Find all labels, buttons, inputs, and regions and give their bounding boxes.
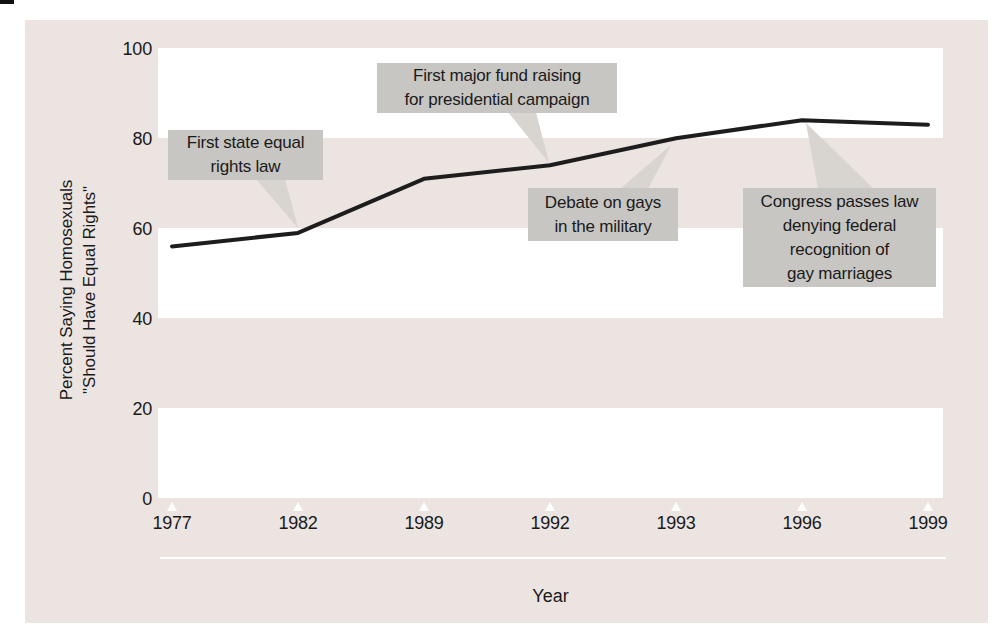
y-tick-label: 100	[88, 40, 152, 58]
y-axis-title-line: Percent Saying Homosexuals	[55, 140, 78, 440]
annotation-text-line: Congress passes law	[743, 190, 936, 214]
x-axis-title: Year	[158, 586, 943, 607]
x-tick-label: 1993	[636, 513, 716, 534]
x-tick-label: 1992	[510, 513, 590, 534]
x-tick-label: 1996	[762, 513, 842, 534]
x-tick-label: 1989	[384, 513, 464, 534]
annotation-text-line: rights law	[168, 155, 323, 179]
annotation-box-fund-raising: First major fund raising for presidentia…	[377, 63, 617, 113]
annotation-text-line: First state equal	[168, 131, 323, 155]
x-axis-separator-line	[160, 557, 946, 559]
x-tick-label: 1977	[132, 513, 212, 534]
y-axis-title: Percent Saying Homosexuals "Should Have …	[55, 140, 101, 440]
grid-band-20-0	[158, 408, 943, 498]
y-axis-title-line: "Should Have Equal Rights"	[78, 140, 101, 440]
annotation-text-line: for presidential campaign	[377, 88, 617, 112]
annotation-text-line: gay marriages	[743, 262, 936, 286]
y-tick-label: 0	[88, 490, 152, 508]
annotation-text-line: in the military	[528, 215, 678, 239]
annotation-text-line: First major fund raising	[377, 64, 617, 88]
annotation-box-debate-military: Debate on gays in the military	[528, 188, 678, 241]
annotation-box-congress-law: Congress passes law denying federal reco…	[743, 188, 936, 287]
x-tick-label: 1999	[888, 513, 968, 534]
annotation-text-line: recognition of	[743, 238, 936, 262]
annotation-box-first-state: First state equal rights law	[168, 130, 323, 180]
figure-canvas: 100 80 60 40 20 0 Percent Saying Homosex…	[0, 0, 999, 633]
annotation-text-line: Debate on gays	[528, 191, 678, 215]
scan-corner-mark	[0, 0, 14, 4]
x-tick-label: 1982	[258, 513, 338, 534]
annotation-text-line: denying federal	[743, 214, 936, 238]
